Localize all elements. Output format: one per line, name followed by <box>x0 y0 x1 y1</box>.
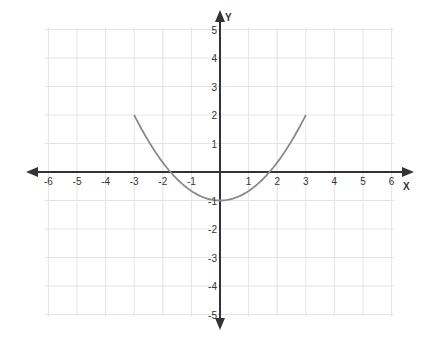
x-tick-label: 3 <box>303 176 309 187</box>
y-tick-label: -2 <box>208 224 217 235</box>
x-tick-label: -6 <box>44 176 53 187</box>
y-tick-label: 1 <box>211 139 217 150</box>
x-tick-label: -1 <box>187 176 196 187</box>
y-tick-label: 2 <box>211 110 217 121</box>
y-tick-label: -4 <box>208 281 217 292</box>
y-tick-label: 5 <box>211 25 217 36</box>
x-tick-label: 6 <box>389 176 395 187</box>
x-tick-label: 4 <box>332 176 338 187</box>
x-axis-label: X <box>403 181 410 192</box>
x-tick-label: 1 <box>246 176 252 187</box>
x-tick-label: 2 <box>274 176 280 187</box>
x-tick-label: 5 <box>360 176 366 187</box>
x-tick-label: -4 <box>101 176 110 187</box>
y-tick-label: -5 <box>208 310 217 321</box>
y-tick-label: -1 <box>208 196 217 207</box>
y-tick-label: 4 <box>211 53 217 64</box>
x-axis-right-arrow-icon <box>402 167 414 177</box>
y-axis-up-arrow-icon <box>215 10 225 22</box>
coordinate-plane: -6-5-4-3-2-1123456 -5-4-3-2-112345 X Y <box>0 0 430 349</box>
x-tick-label: -2 <box>158 176 167 187</box>
x-axis-left-arrow-icon <box>26 167 38 177</box>
y-tick-label: 3 <box>211 82 217 93</box>
y-axis-label: Y <box>225 12 232 23</box>
x-tick-label: -5 <box>73 176 82 187</box>
y-tick-label: -3 <box>208 253 217 264</box>
x-tick-label: -3 <box>130 176 139 187</box>
